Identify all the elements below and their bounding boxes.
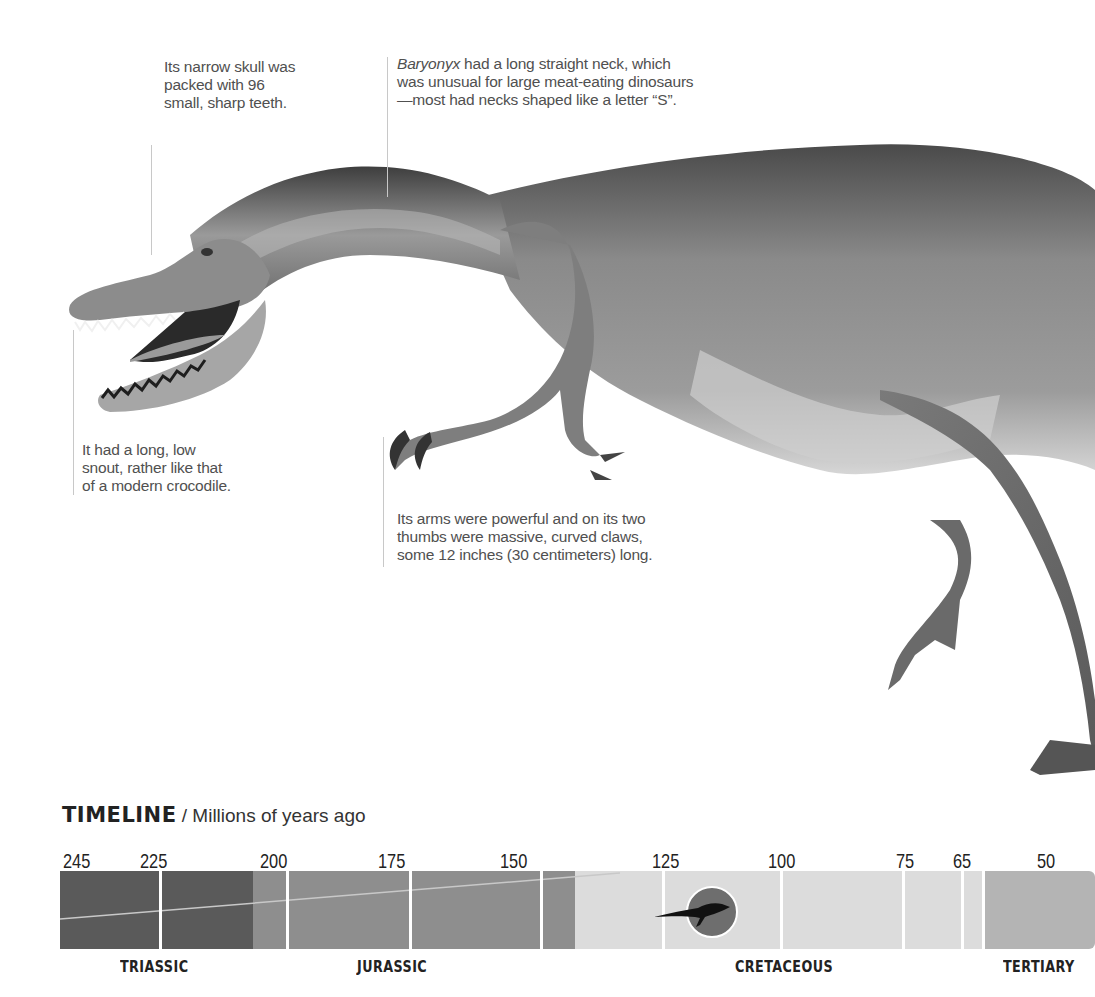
caption-arms-line: thumbs were massive, curved claws, <box>397 528 652 546</box>
baryonyx-marker <box>650 885 750 945</box>
caption-arms: Its arms were powerful and on its two th… <box>397 510 652 564</box>
tick-divider-200 <box>286 871 289 951</box>
tick-225: 225 <box>140 849 167 873</box>
tick-100: 100 <box>768 849 795 873</box>
skull-leader-line <box>151 145 152 255</box>
period-label-tertiary: TERTIARY <box>1003 958 1075 976</box>
caption-snout: It had a long, low snout, rather like th… <box>82 441 231 495</box>
tick-divider-175 <box>409 871 412 951</box>
tick-75: 75 <box>896 849 914 873</box>
caption-snout-line: snout, rather like that <box>82 459 231 477</box>
tick-125: 125 <box>652 849 679 873</box>
period-bar-cretaceous <box>575 871 982 949</box>
period-label-jurassic: JURASSIC <box>357 958 427 976</box>
tick-175: 175 <box>378 849 405 873</box>
caption-skull-line: small, sharp teeth. <box>164 94 295 112</box>
caption-snout-line: of a modern crocodile. <box>82 477 231 495</box>
caption-skull-line: Its narrow skull was <box>164 58 295 76</box>
caption-neck-line: was unusual for large meat-eating dinosa… <box>397 73 693 91</box>
tick-65: 65 <box>953 849 971 873</box>
caption-neck-line: Baryonyx had a long straight neck, which <box>397 55 693 73</box>
tick-divider-150 <box>540 871 543 951</box>
tick-245: 245 <box>63 849 90 873</box>
snout-leader-line <box>73 330 74 495</box>
tick-divider-65 <box>961 871 964 951</box>
neck-leader-line <box>387 57 388 197</box>
caption-neck: Baryonyx had a long straight neck, which… <box>397 55 693 109</box>
caption-skull: Its narrow skull was packed with 96 smal… <box>164 58 295 112</box>
caption-neck-text: had a long straight neck, which <box>460 55 671 72</box>
caption-arms-line: Its arms were powerful and on its two <box>397 510 652 528</box>
timeline-heading: TIMELINE <box>62 803 177 827</box>
period-label-triassic: TRIASSIC <box>120 958 188 976</box>
arms-leader-line <box>383 437 384 567</box>
timeline-subtitle: / Millions of years ago <box>177 805 366 826</box>
caption-arms-line: some 12 inches (30 centimeters) long. <box>397 546 652 564</box>
period-label-cretaceous: CRETACEOUS <box>735 958 833 976</box>
caption-snout-line: It had a long, low <box>82 441 231 459</box>
caption-skull-line: packed with 96 <box>164 76 295 94</box>
tick-200: 200 <box>260 849 287 873</box>
tick-divider-225 <box>159 871 162 951</box>
tick-150: 150 <box>500 849 527 873</box>
period-bar-tertiary <box>985 871 1095 949</box>
dinosaur-illustration <box>0 0 1095 800</box>
species-name: Baryonyx <box>397 55 460 72</box>
timeline-guide-line <box>60 871 620 951</box>
tick-divider-75 <box>902 871 905 951</box>
caption-neck-line: —most had necks shaped like a letter “S”… <box>397 91 693 109</box>
tick-50: 50 <box>1037 849 1055 873</box>
timeline-title: TIMELINE / Millions of years ago <box>62 803 366 827</box>
tick-divider-100 <box>780 871 783 951</box>
